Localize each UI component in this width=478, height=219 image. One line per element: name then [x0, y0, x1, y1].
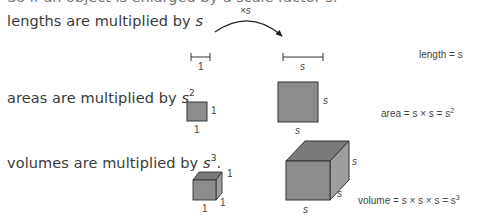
arrow-label: ×s	[240, 5, 251, 16]
scaled-cube-width-label: s	[303, 204, 308, 215]
scaled-segment-label: s	[300, 61, 305, 72]
scaled-segment	[283, 53, 323, 61]
unit-cube-height-label: 1	[227, 168, 233, 179]
unit-segment	[191, 53, 210, 61]
scaled-square	[278, 82, 318, 122]
scaled-cube-height-label: s	[352, 156, 357, 167]
unit-cube	[193, 172, 222, 200]
length-formula: length = s	[419, 49, 463, 60]
scaled-square-side-label: s	[323, 95, 328, 106]
unit-square	[187, 102, 207, 121]
scale-arrow-icon	[215, 21, 282, 36]
scaled-square-bottom-label: s	[295, 125, 300, 136]
volume-formula: volume = s × s × s = s3	[358, 194, 460, 206]
unit-cube-depth-label: 1	[220, 197, 226, 208]
unit-cube-width-label: 1	[202, 203, 208, 214]
unit-square-side-label: 1	[211, 105, 217, 116]
unit-square-bottom-label: 1	[194, 124, 200, 135]
area-formula: area = s × s = s2	[381, 107, 454, 119]
scaled-cube-depth-label: s	[337, 188, 342, 199]
unit-segment-label: 1	[198, 61, 204, 72]
